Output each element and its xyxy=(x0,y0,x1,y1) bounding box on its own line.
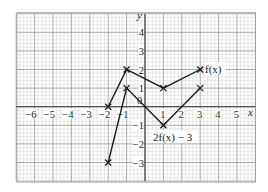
x-tick-label: −6 xyxy=(25,109,36,120)
y-tick-label: 3 xyxy=(139,46,144,57)
x-tick-label: 4 xyxy=(215,109,221,120)
x-tick-label: −5 xyxy=(44,109,55,120)
x-tick-label: −3 xyxy=(81,109,92,120)
x-tick-label: 1 xyxy=(160,109,165,120)
x-tick-label: 5 xyxy=(234,109,239,120)
y-tick-label: −1 xyxy=(133,120,144,131)
tick-labels: −6−5−4−3−2−1012345−3−2−11234 xyxy=(25,26,239,168)
y-tick-label: 1 xyxy=(139,83,144,94)
x-tick-label: 2 xyxy=(179,109,184,120)
curves xyxy=(105,67,203,166)
y-tick-label: 2 xyxy=(139,65,144,76)
y-axis-label: y xyxy=(136,9,142,21)
y-tick-label: −2 xyxy=(133,139,144,150)
x-tick-label: −2 xyxy=(99,109,110,120)
curve-label-g: 2f(x) − 3 xyxy=(153,131,193,144)
x-axis-label: x xyxy=(247,106,253,118)
x-tick-label: −4 xyxy=(62,109,74,120)
y-tick-label: −3 xyxy=(133,158,144,169)
y-tick-label: 4 xyxy=(139,27,145,38)
curve-label-f: f(x) xyxy=(205,63,222,76)
graph: −6−5−4−3−2−1012345−3−2−11234 f(x)2f(x) −… xyxy=(0,0,268,192)
x-tick-label: 3 xyxy=(197,109,202,120)
